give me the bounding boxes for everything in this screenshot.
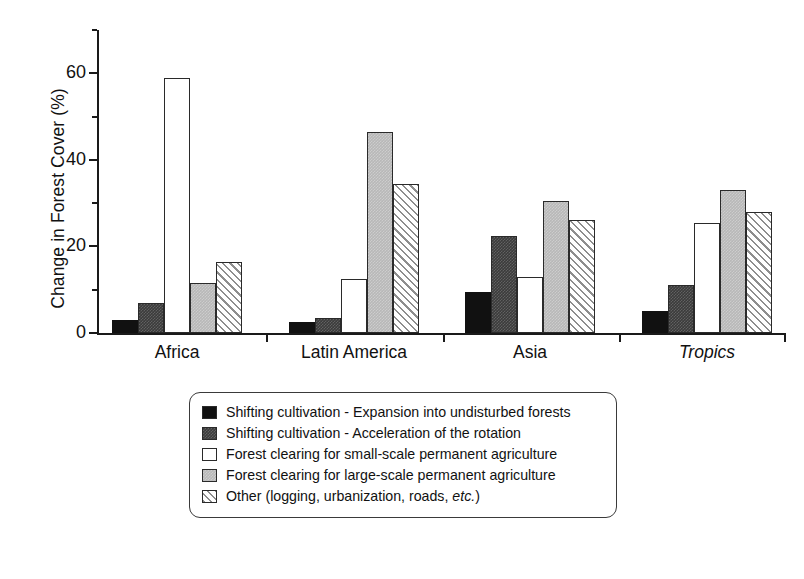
y-tick-20 [89, 245, 97, 247]
legend-item-4[interactable]: Forest clearing for large-scale permanen… [202, 465, 604, 486]
bar-asia-series-4 [543, 201, 569, 333]
bar-asia-series-3 [517, 277, 543, 333]
x-axis-label-asia: Asia [513, 342, 547, 363]
x-axis-line [97, 333, 785, 335]
y-axis-line [97, 30, 99, 334]
bar-africa-series-4 [190, 283, 216, 333]
chart-legend: Shifting cultivation - Expansion into un… [189, 392, 617, 518]
y-tick-label-0: 0 [76, 322, 86, 343]
x-tick-4 [784, 333, 786, 342]
bar-tropics-series-3 [694, 223, 720, 333]
legend-swatch-hatch-icon [202, 490, 217, 503]
bar-asia-series-1 [465, 292, 491, 333]
legend-swatch-white-icon [202, 448, 217, 461]
legend-item-1[interactable]: Shifting cultivation - Expansion into un… [202, 402, 604, 423]
y-minor-tick-10 [92, 289, 97, 291]
legend-swatch-black-icon [202, 406, 217, 419]
bar-latin-america-series-5 [393, 184, 419, 333]
bar-asia-series-2 [491, 236, 517, 333]
bar-latin-america-series-2 [315, 318, 341, 333]
x-tick-1 [266, 333, 268, 342]
bar-tropics-series-4 [720, 190, 746, 333]
bar-chart-figure: Change in Forest Cover (%) 0204060 Afric… [0, 0, 804, 579]
y-minor-tick-70 [92, 29, 97, 31]
legend-label: Other (logging, urbanization, roads, etc… [226, 489, 480, 503]
legend-item-3[interactable]: Forest clearing for small-scale permanen… [202, 444, 604, 465]
bar-tropics-series-5 [746, 212, 772, 333]
legend-label: Forest clearing for small-scale permanen… [226, 447, 557, 461]
x-axis-label-latin-america: Latin America [301, 342, 407, 363]
y-minor-tick-30 [92, 202, 97, 204]
bar-africa-series-5 [216, 262, 242, 333]
legend-label: Forest clearing for large-scale permanen… [226, 468, 556, 482]
y-tick-label-60: 60 [66, 62, 86, 83]
legend-item-2[interactable]: Shifting cultivation - Acceleration of t… [202, 423, 604, 444]
bar-tropics-series-2 [668, 285, 694, 333]
y-axis-title: Change in Forest Cover (%) [48, 49, 69, 349]
bar-latin-america-series-3 [341, 279, 367, 333]
bar-africa-series-1 [112, 320, 138, 333]
bar-tropics-series-1 [642, 311, 668, 333]
bar-asia-series-5 [569, 220, 595, 333]
legend-label: Shifting cultivation - Expansion into un… [226, 405, 571, 419]
y-minor-tick-50 [92, 116, 97, 118]
x-axis-label-africa: Africa [155, 342, 200, 363]
bar-latin-america-series-4 [367, 132, 393, 333]
plot-area: 0204060 AfricaLatin AmericaAsiaTropics [97, 30, 785, 334]
y-tick-label-20: 20 [66, 236, 86, 257]
bar-africa-series-2 [138, 303, 164, 333]
legend-item-5[interactable]: Other (logging, urbanization, roads, etc… [202, 486, 604, 507]
x-tick-2 [443, 333, 445, 342]
bar-latin-america-series-1 [289, 322, 315, 333]
bar-africa-series-3 [164, 78, 190, 333]
x-axis-label-tropics: Tropics [679, 342, 735, 363]
legend-swatch-lightgray-icon [202, 469, 217, 482]
y-tick-label-40: 40 [66, 149, 86, 170]
y-tick-40 [89, 159, 97, 161]
legend-swatch-darkgray-icon [202, 427, 217, 440]
x-tick-3 [619, 333, 621, 342]
y-tick-0 [89, 332, 97, 334]
y-tick-60 [89, 72, 97, 74]
legend-label: Shifting cultivation - Acceleration of t… [226, 426, 521, 440]
